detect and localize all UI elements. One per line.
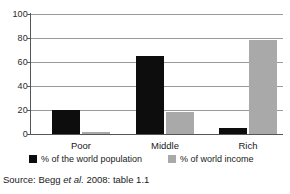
bar-middle-population: [136, 56, 164, 134]
bar-poor-income: [82, 132, 110, 134]
legend-label-income: % of world income: [180, 154, 254, 164]
bar-middle-income: [166, 112, 194, 134]
x-label-middle: Middle: [120, 140, 210, 152]
y-axis-tick-labels: 100 80 60 40 20 0: [0, 6, 28, 138]
axes: [31, 14, 283, 134]
y-tick-label-80: 80: [2, 34, 28, 43]
bar-rich-population: [219, 128, 247, 134]
bar-rich-income: [249, 40, 277, 134]
y-tick-mark-0: [27, 134, 31, 135]
bar-poor-population: [52, 110, 80, 134]
y-tick-label-40: 40: [2, 82, 28, 91]
bars-layer: [31, 14, 283, 134]
source-italic: et al.: [63, 174, 84, 185]
plot-area: 100 80 60 40 20 0: [0, 6, 290, 138]
legend-swatch-income-icon: [168, 155, 176, 163]
y-tick-label-60: 60: [2, 58, 28, 67]
legend-item-income: % of world income: [168, 152, 254, 166]
y-tick-label-20: 20: [2, 106, 28, 115]
source-suffix: 2008: table 1.1: [84, 174, 150, 185]
chart-figure: 100 80 60 40 20 0: [0, 0, 290, 194]
x-label-rich: Rich: [203, 140, 290, 152]
source-note: Source: Begg et al. 2008: table 1.1: [3, 174, 149, 186]
legend-item-population: % of the world population: [29, 152, 142, 166]
y-tick-label-100: 100: [2, 10, 28, 19]
source-prefix: Source: Begg: [3, 174, 63, 185]
x-label-poor: Poor: [36, 140, 126, 152]
legend-label-population: % of the world population: [41, 154, 142, 164]
legend-swatch-population-icon: [29, 155, 37, 163]
x-axis-baseline: [31, 134, 283, 135]
y-tick-label-0: 0: [2, 130, 28, 139]
chart-legend: % of the world population % of world inc…: [0, 152, 290, 168]
